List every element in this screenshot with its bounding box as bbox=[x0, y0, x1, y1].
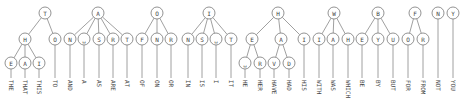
node-letter: R bbox=[421, 36, 425, 43]
trie-node-h: H bbox=[272, 7, 284, 19]
node-letter: F bbox=[140, 36, 144, 43]
edge bbox=[276, 45, 280, 57]
trie-node-of: F bbox=[136, 33, 148, 45]
node-letter: R bbox=[111, 36, 115, 43]
word-label: A bbox=[81, 80, 88, 84]
node-letter: I bbox=[317, 36, 321, 43]
node-letter: E bbox=[9, 60, 13, 67]
word-label: BY bbox=[375, 80, 382, 88]
word-label: WITH bbox=[316, 80, 323, 95]
word-label: THE bbox=[8, 80, 15, 91]
word-label: BUT bbox=[390, 80, 397, 91]
word-label: IT bbox=[228, 80, 235, 88]
word-label: AND bbox=[67, 80, 74, 91]
word-trie-diagram: THEAIOAN␣SRTOFNRINS␣THE␣RAVDIWIAHBEYUFOR… bbox=[0, 0, 463, 106]
node-letter: ␣ bbox=[243, 60, 247, 68]
node-letter: I bbox=[302, 36, 306, 43]
words: THETHATTHISTOANDAASAREATOFONORINISIITHEH… bbox=[8, 80, 457, 98]
trie-node-at: T bbox=[121, 33, 133, 45]
edge bbox=[247, 45, 251, 57]
node-letter: ␣ bbox=[214, 36, 218, 44]
node-letter: N bbox=[186, 36, 190, 43]
node-letter: R bbox=[258, 60, 262, 67]
node-letter: R bbox=[169, 36, 173, 43]
edge bbox=[283, 45, 287, 58]
trie-node-bu: U bbox=[387, 33, 399, 45]
trie-node-b: B bbox=[372, 7, 384, 19]
edge bbox=[29, 18, 42, 34]
edge bbox=[213, 18, 227, 35]
edge bbox=[282, 17, 300, 35]
node-letter: H bbox=[346, 36, 350, 43]
word-label: HIS bbox=[301, 80, 308, 91]
node-letter: B bbox=[376, 10, 380, 17]
word-label: WAS bbox=[330, 80, 337, 91]
edge bbox=[256, 17, 274, 35]
word-label: BE bbox=[359, 80, 366, 88]
trie-node-by: Y bbox=[372, 33, 384, 45]
node-letter: S bbox=[97, 36, 101, 43]
edge bbox=[417, 19, 421, 34]
word-label: AS bbox=[96, 80, 103, 88]
node-letter: T bbox=[229, 36, 233, 43]
word-label: HAVE bbox=[271, 80, 278, 95]
word-label: IN bbox=[185, 80, 192, 88]
trie-node-wa: A bbox=[327, 33, 339, 45]
word-label: HAD bbox=[286, 80, 293, 91]
trie-node-an: N bbox=[64, 33, 76, 45]
trie-node-f: F bbox=[409, 7, 421, 19]
word-label: IS bbox=[199, 80, 206, 88]
word-label: ARE bbox=[110, 80, 117, 91]
node-letter: V bbox=[272, 60, 276, 67]
trie-node-her: R bbox=[254, 57, 266, 69]
node-letter: O bbox=[155, 10, 159, 17]
node-letter: A bbox=[331, 36, 335, 43]
trie-canvas: THEAIOAN␣SRTOFNRINS␣THE␣RAVDIWIAHBEYUFOR… bbox=[0, 0, 463, 106]
node-letter: N bbox=[155, 36, 159, 43]
trie-node-i: I bbox=[203, 7, 215, 19]
word-label: OF bbox=[139, 80, 146, 88]
trie-node-wh: H bbox=[342, 33, 354, 45]
word-label: YOU bbox=[450, 80, 457, 91]
word-label: OR bbox=[168, 80, 175, 88]
word-label: HE bbox=[242, 80, 249, 88]
trie-node-ha: A bbox=[275, 33, 287, 45]
word-label: AT bbox=[124, 80, 131, 88]
edge bbox=[145, 18, 154, 34]
node-letter: E bbox=[360, 36, 364, 43]
node-letter: T bbox=[125, 36, 129, 43]
trie-node-or: R bbox=[165, 33, 177, 45]
word-label: I bbox=[213, 80, 220, 84]
node-letter: U bbox=[391, 36, 395, 43]
edge bbox=[322, 18, 331, 34]
node-letter: A bbox=[23, 60, 27, 67]
trie-node-wi: I bbox=[313, 33, 325, 45]
trie-node-fr: R bbox=[417, 33, 429, 45]
trie-node-as: S bbox=[93, 33, 105, 45]
trie-node-n: N bbox=[432, 7, 444, 19]
node-letter: W bbox=[332, 10, 336, 17]
edge bbox=[192, 18, 205, 35]
edge bbox=[47, 19, 53, 34]
trie-node-he-space: ␣ bbox=[239, 57, 251, 69]
edge bbox=[87, 18, 95, 33]
trie-node-on: N bbox=[151, 33, 163, 45]
word-label: ON bbox=[154, 80, 161, 88]
edge bbox=[279, 19, 281, 33]
node-letter: Y bbox=[451, 10, 455, 17]
node-letter: I bbox=[37, 60, 41, 67]
edge bbox=[14, 44, 22, 58]
node-letter: H bbox=[276, 10, 280, 17]
node-letter: T bbox=[43, 10, 47, 17]
edge bbox=[410, 19, 414, 33]
edge bbox=[333, 19, 334, 33]
node-letter: H bbox=[23, 36, 27, 43]
word-label: TO bbox=[52, 80, 59, 88]
node-letter: O bbox=[53, 36, 57, 43]
node-letter: N bbox=[436, 10, 440, 17]
trie-node-he: E bbox=[246, 33, 258, 45]
trie-node-y: Y bbox=[447, 7, 459, 19]
word-label: HER bbox=[257, 80, 264, 91]
trie-node-ar: R bbox=[107, 33, 119, 45]
trie-node-o: O bbox=[151, 7, 163, 19]
